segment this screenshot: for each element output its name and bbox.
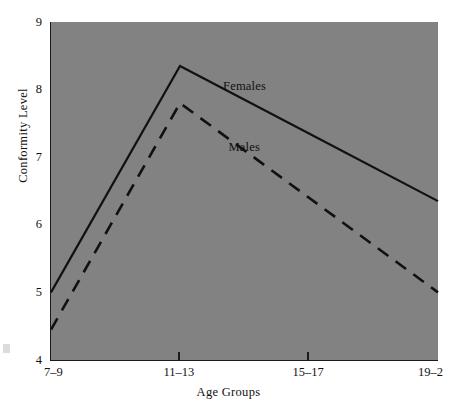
- y-tick-label: 5: [16, 286, 42, 299]
- x-axis-title: Age Groups: [0, 385, 457, 400]
- y-tick-label: 9: [16, 16, 42, 29]
- series-label-males: Males: [229, 141, 261, 154]
- y-tick-label: 7: [16, 151, 42, 164]
- series-line-males: [51, 103, 438, 329]
- x-tick-label: 19–2: [418, 366, 443, 379]
- y-tick-label: 6: [16, 218, 42, 231]
- series-lines: [51, 22, 438, 360]
- x-tick-mark: [178, 352, 180, 360]
- x-tick-label: 7–9: [44, 366, 63, 379]
- series-label-females: Females: [223, 80, 266, 93]
- y-tick-label: 8: [16, 83, 42, 96]
- series-line-females: [51, 66, 438, 292]
- conformity-level-line-chart: Conformity Level 456789 FemalesMales 7–9…: [0, 0, 457, 405]
- plot-area: FemalesMales: [50, 22, 438, 361]
- x-tick-label: 15–17: [293, 366, 324, 379]
- x-tick-label: 11–13: [164, 366, 195, 379]
- x-tick-mark: [307, 352, 309, 360]
- y-tick-label: 4: [16, 354, 42, 367]
- page-margin-artifact: [3, 344, 10, 353]
